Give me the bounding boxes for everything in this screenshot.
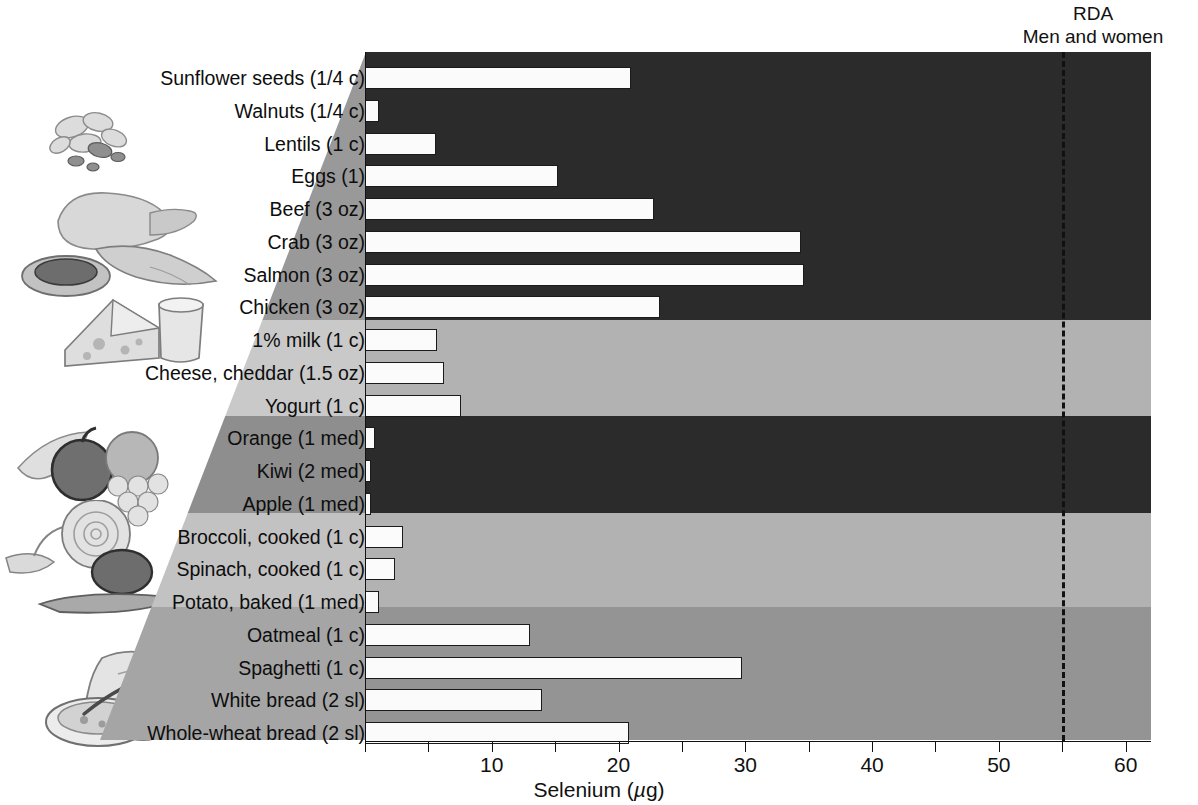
bar: [365, 362, 444, 384]
x-tick: [555, 742, 556, 752]
bar: [365, 100, 379, 122]
category-label: Salmon (3 oz): [0, 265, 365, 285]
bar: [365, 231, 801, 253]
x-tick: [492, 742, 493, 752]
x-tick-label: 10: [462, 753, 522, 777]
category-label: Crab (3 oz): [0, 232, 365, 252]
x-tick: [745, 742, 746, 752]
x-tick-label: 40: [842, 753, 902, 777]
category-label: Cheese, cheddar (1.5 oz): [0, 363, 365, 383]
band-fruits: [365, 416, 1151, 513]
x-axis-title: Selenium (µg): [0, 778, 1198, 802]
category-label: Yogurt (1 c): [0, 396, 365, 416]
x-tick: [935, 742, 936, 752]
bar: [365, 526, 403, 548]
x-tick-label: 20: [589, 753, 649, 777]
rda-annotation: RDA Men and women: [973, 2, 1198, 48]
category-label: Spaghetti (1 c): [0, 658, 365, 678]
category-label: Potato, baked (1 med): [0, 592, 365, 612]
category-label: Orange (1 med): [0, 428, 365, 448]
bar: [365, 133, 436, 155]
x-tick: [682, 742, 683, 752]
rda-title: RDA: [973, 2, 1198, 25]
bar: [365, 689, 542, 711]
category-label: Lentils (1 c): [0, 134, 365, 154]
selenium-chart-figure: RDA Men and women Sunflower seeds (1/4 c…: [0, 0, 1198, 805]
x-axis-line: [365, 741, 1151, 742]
x-tick-label: 30: [715, 753, 775, 777]
category-label: Sunflower seeds (1/4 c): [0, 68, 365, 88]
category-label: 1% milk (1 c): [0, 330, 365, 350]
rda-dashed-line: [1062, 52, 1065, 741]
bar: [365, 427, 375, 449]
band-vegetables: [365, 513, 1151, 607]
category-label: Walnuts (1/4 c): [0, 101, 365, 121]
x-tick: [1062, 742, 1063, 752]
x-tick: [365, 742, 366, 752]
x-tick: [999, 742, 1000, 752]
x-axis-title-text: Selenium (µg): [533, 778, 664, 801]
category-label: Beef (3 oz): [0, 199, 365, 219]
category-label: White bread (2 sl): [0, 690, 365, 710]
x-tick-label: 60: [1096, 753, 1156, 777]
bar: [365, 558, 395, 580]
bar: [365, 624, 530, 646]
category-label: Kiwi (2 med): [0, 461, 365, 481]
x-tick: [1126, 742, 1127, 752]
category-label: Broccoli, cooked (1 c): [0, 527, 365, 547]
bar: [365, 67, 631, 89]
rda-subtitle: Men and women: [973, 25, 1198, 48]
category-labels: Sunflower seeds (1/4 c)Walnuts (1/4 c)Le…: [0, 52, 365, 740]
bar: [365, 395, 461, 417]
category-label: Whole-wheat bread (2 sl): [0, 723, 365, 743]
bar: [365, 657, 742, 679]
bar: [365, 165, 558, 187]
x-tick: [619, 742, 620, 752]
category-label: Spinach, cooked (1 c): [0, 559, 365, 579]
category-label: Chicken (3 oz): [0, 297, 365, 317]
category-label: Apple (1 med): [0, 494, 365, 514]
x-tick: [872, 742, 873, 752]
x-tick-label: 50: [969, 753, 1029, 777]
bar: [365, 198, 654, 220]
bar: [365, 296, 660, 318]
bar: [365, 329, 437, 351]
category-label: Oatmeal (1 c): [0, 625, 365, 645]
y-axis-line: [365, 52, 366, 742]
plot-area: Sunflower seeds (1/4 c)Walnuts (1/4 c)Le…: [365, 52, 1151, 740]
x-tick: [428, 742, 429, 752]
x-tick: [809, 742, 810, 752]
bar: [365, 264, 804, 286]
category-label: Eggs (1): [0, 166, 365, 186]
band-dairy: [365, 320, 1151, 416]
bar: [365, 591, 379, 613]
